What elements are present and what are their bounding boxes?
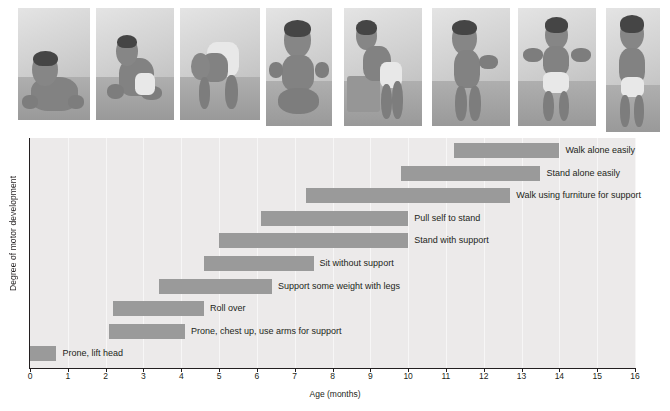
x-tick-label: 4 [179,371,184,381]
bar-row: Sit without support [0,253,670,276]
bar-row: Walk using furniture for support [0,185,670,208]
baby-prone-lifting-head [18,8,90,120]
milestone-bar[interactable] [159,279,272,294]
bar-row: Roll over [0,298,670,321]
baby-walking-alone [606,8,660,132]
x-tick-label: 11 [442,371,451,381]
x-tick-label: 5 [217,371,222,381]
x-axis-title: Age (months) [0,389,670,399]
milestone-bar[interactable] [219,233,408,248]
baby-rolling-over [96,8,174,120]
baby-sitting-without-support [266,8,332,126]
bar-row: Support some weight with legs [0,276,670,299]
milestone-label: Support some weight with legs [278,278,400,294]
milestone-label: Pull self to stand [414,210,480,226]
bar-row: Stand with support [0,230,670,253]
x-tick-label: 7 [292,371,297,381]
baby-pushing-up-on-arms [180,8,260,120]
x-tick-label: 16 [630,371,639,381]
baby-walking-with-support [518,8,596,126]
milestone-bar[interactable] [109,324,185,339]
milestone-bar[interactable] [401,166,541,181]
x-tick-label: 10 [403,371,412,381]
x-tick-label: 3 [141,371,146,381]
milestone-label: Walk alone easily [565,142,635,158]
milestone-label: Walk using furniture for support [516,187,641,203]
milestone-bar[interactable] [113,301,204,316]
x-tick-label: 6 [255,371,260,381]
baby-pulling-self-to-stand [344,8,422,126]
x-tick-label: 15 [592,371,601,381]
bar-row: Walk alone easily [0,140,670,163]
milestone-bar[interactable] [261,211,408,226]
x-tick-label: 14 [555,371,564,381]
x-tick-label: 13 [517,371,526,381]
milestone-bar[interactable] [30,346,56,361]
milestone-label: Roll over [210,300,246,316]
bar-row: Prone, lift head [0,343,670,366]
photo-strip [0,0,670,136]
milestone-bar[interactable] [454,143,560,158]
baby-standing-with-support [432,8,510,126]
milestone-label: Stand with support [414,232,489,248]
bar-row: Pull self to stand [0,208,670,231]
x-tick-label: 2 [103,371,108,381]
milestone-label: Prone, chest up, use arms for support [191,323,342,339]
milestone-bar[interactable] [306,188,510,203]
x-tick-label: 8 [330,371,335,381]
x-tick-label: 1 [65,371,70,381]
x-tick-label: 9 [368,371,373,381]
x-tick-label: 0 [28,371,33,381]
bar-row: Prone, chest up, use arms for support [0,321,670,344]
milestone-bar[interactable] [204,256,314,271]
bar-row: Stand alone easily [0,163,670,186]
x-tick-label: 12 [479,371,488,381]
milestone-label: Sit without support [320,255,394,271]
milestone-label: Stand alone easily [546,165,620,181]
milestone-label: Prone, lift head [62,345,123,361]
